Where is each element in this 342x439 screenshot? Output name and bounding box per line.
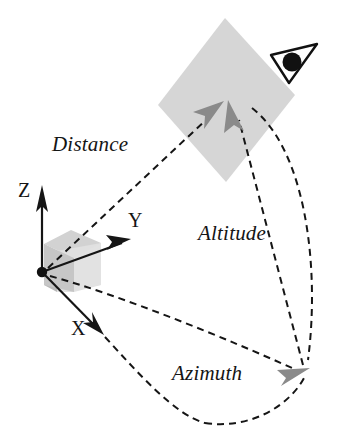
- eye-pupil: [283, 53, 302, 72]
- azimuth-label: Azimuth: [172, 363, 242, 384]
- azimuth-ray-upper: [50, 276, 292, 368]
- image-plane-quad: [158, 18, 295, 182]
- axis-label-x: X: [71, 318, 85, 338]
- distance-label: Distance: [52, 134, 128, 155]
- origin-dot: [37, 267, 47, 277]
- y-axis-arrowhead: [106, 235, 131, 250]
- axis-label-y: Y: [128, 210, 142, 230]
- altitude-label: Altitude: [198, 223, 266, 244]
- axis-label-z: Z: [18, 180, 30, 200]
- viewing-geometry-svg: [0, 0, 342, 439]
- diagram-canvas: Distance Altitude Azimuth Z Y X: [0, 0, 342, 439]
- azimuth-arrowhead: [277, 368, 310, 386]
